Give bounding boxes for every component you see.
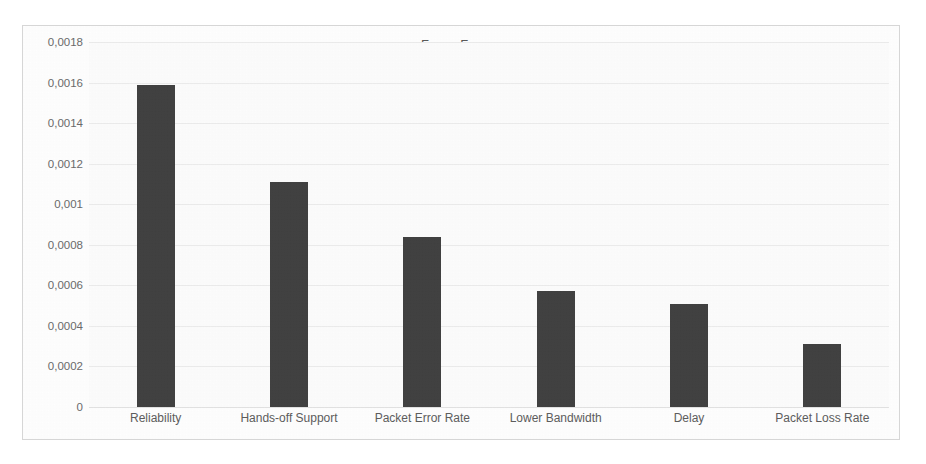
bar — [270, 182, 308, 407]
bar — [670, 304, 708, 407]
y-axis: 00,00020,00040,00060,00080,0010,00120,00… — [23, 42, 83, 407]
bar — [137, 85, 175, 407]
y-axis-tick-label: 0,0018 — [23, 36, 83, 48]
bar-series — [89, 42, 889, 407]
bar — [403, 237, 441, 407]
y-axis-tick-label: 0,0002 — [23, 360, 83, 372]
y-axis-tick-label: 0,0016 — [23, 77, 83, 89]
x-axis-tick-label: Delay — [674, 411, 705, 425]
x-axis-tick-label: Reliability — [130, 411, 181, 425]
plot-area — [89, 42, 889, 407]
x-axis: ReliabilityHands-off SupportPacket Error… — [89, 411, 889, 435]
x-axis-tick-label: Lower Bandwidth — [510, 411, 602, 425]
x-axis-tick-label: Hands-off Support — [240, 411, 337, 425]
y-axis-tick-label: 0,0008 — [23, 239, 83, 251]
y-axis-tick-label: 0,0004 — [23, 320, 83, 332]
chart-frame: Fuzzy Fucom 00,00020,00040,00060,00080,0… — [22, 25, 900, 440]
bar — [803, 344, 841, 407]
bar — [537, 291, 575, 407]
y-axis-tick-label: 0,001 — [23, 198, 83, 210]
y-axis-tick-label: 0,0014 — [23, 117, 83, 129]
x-axis-tick-label: Packet Loss Rate — [775, 411, 869, 425]
gridline — [89, 407, 889, 408]
y-axis-tick-label: 0 — [23, 401, 83, 413]
x-axis-tick-label: Packet Error Rate — [375, 411, 470, 425]
y-axis-tick-label: 0,0006 — [23, 279, 83, 291]
y-axis-tick-label: 0,0012 — [23, 158, 83, 170]
